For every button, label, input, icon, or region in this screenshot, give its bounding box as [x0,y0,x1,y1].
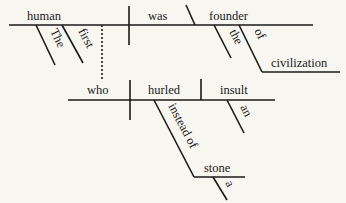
word-instead-of: instead of [165,101,201,152]
modifier-line-the-2 [214,25,231,58]
word-founder: founder [209,9,249,23]
predicate-nominative-divider [186,5,195,25]
word-insult: insult [220,83,248,97]
word-first: first [75,26,97,51]
sentence-diagram: human was founder The first the of civil… [0,0,346,203]
word-stone: stone [204,161,231,175]
word-was: was [148,9,168,23]
word-human: human [27,9,62,23]
word-of: of [251,26,269,43]
word-who: who [87,83,109,97]
word-the-2: the [226,27,246,47]
word-an: an [237,102,255,119]
word-a: a [222,178,237,190]
word-hurled: hurled [148,83,181,97]
word-civilization: civilization [271,56,328,70]
